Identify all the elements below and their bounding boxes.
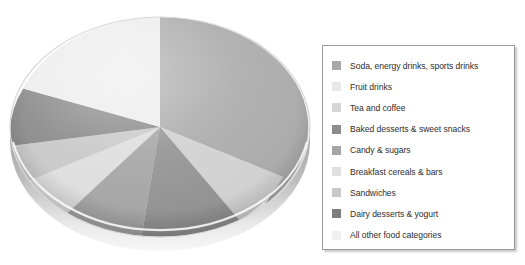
legend-item-label: Breakfast cereals & bars [350,167,442,177]
legend-swatch-icon [332,82,341,91]
legend-item-label: Baked desserts & sweet snacks [350,124,470,134]
legend-swatch-icon [332,61,341,70]
legend-item-dairy-desserts-yogurt[interactable]: Dairy desserts & yogurt [332,203,508,224]
legend-swatch-icon [332,188,341,197]
pie-chart-plot-area [0,0,320,265]
legend-swatch-icon [332,209,341,218]
legend-item-sandwiches[interactable]: Sandwiches [332,182,508,203]
legend-swatch-icon [332,167,341,176]
legend-item-soda-energy-drinks-sports-drinks[interactable]: Soda, energy drinks, sports drinks [332,55,508,76]
legend-item-fruit-drinks[interactable]: Fruit drinks [332,76,508,97]
legend-item-label: Sandwiches [350,188,396,198]
legend-swatch-icon [332,146,341,155]
legend-item-label: Soda, energy drinks, sports drinks [350,61,478,71]
legend-swatch-icon [332,103,341,112]
legend-item-label: Tea and coffee [350,103,406,113]
pie-chart-svg [0,0,320,265]
chart-legend: Soda, energy drinks, sports drinks Fruit… [322,45,515,250]
legend-item-label: Candy & sugars [350,145,410,155]
legend-item-label: All other food categories [350,230,441,240]
pie-chart-figure: Soda, energy drinks, sports drinks Fruit… [0,0,525,265]
legend-item-tea-and-coffee[interactable]: Tea and coffee [332,97,508,118]
legend-item-label: Dairy desserts & yogurt [350,209,438,219]
legend-swatch-icon [332,125,341,134]
legend-item-all-other-food-categories[interactable]: All other food categories [332,225,508,246]
legend-item-label: Fruit drinks [350,82,392,92]
pie-rim-shading [10,17,310,237]
legend-item-baked-desserts-sweet-snacks[interactable]: Baked desserts & sweet snacks [332,119,508,140]
legend-swatch-icon [332,231,341,240]
legend-item-candy-sugars[interactable]: Candy & sugars [332,140,508,161]
legend-item-breakfast-cereals-bars[interactable]: Breakfast cereals & bars [332,161,508,182]
